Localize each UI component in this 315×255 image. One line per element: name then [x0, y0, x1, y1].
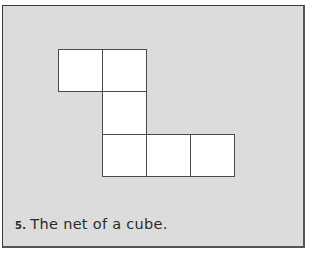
net-square-6: [190, 134, 235, 177]
net-square-2: [102, 49, 147, 92]
figure-number: 5.: [15, 220, 26, 231]
net-square-5: [146, 134, 191, 177]
net-square-1: [58, 49, 103, 92]
net-square-3: [102, 91, 147, 135]
caption-text: The net of a cube.: [30, 216, 167, 232]
figure-caption: 5.The net of a cube.: [15, 216, 168, 232]
net-square-4: [102, 134, 147, 177]
